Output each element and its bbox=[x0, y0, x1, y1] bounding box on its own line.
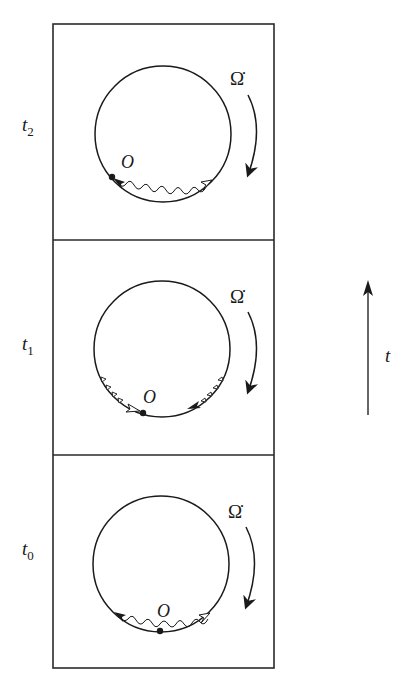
rotation-label: Ω̇ bbox=[230, 68, 246, 89]
panel-t1: Ω̇ O bbox=[94, 281, 257, 417]
open-arrow-icon bbox=[199, 613, 210, 623]
point-o-label: O bbox=[121, 152, 134, 172]
time-label-t0: t0 bbox=[22, 538, 34, 563]
time-axis-arrow-icon bbox=[363, 280, 373, 415]
wave-signal bbox=[118, 181, 206, 194]
rotation-label: Ω̇ bbox=[228, 501, 244, 522]
rotation-arrow-icon bbox=[246, 527, 255, 607]
time-label-t2: t2 bbox=[22, 114, 34, 139]
rotation-arrow-icon bbox=[248, 312, 257, 392]
rotation-arrow-icon bbox=[248, 95, 257, 175]
point-o-dot bbox=[157, 628, 163, 634]
ring-circle bbox=[94, 281, 230, 417]
rotation-label: Ω̇ bbox=[230, 286, 246, 307]
time-axis-label: t bbox=[385, 345, 391, 366]
solid-arrow-icon bbox=[187, 401, 201, 409]
time-label-t1: t1 bbox=[22, 333, 34, 358]
panel-t2: Ω̇ O bbox=[95, 66, 257, 202]
point-o-dot bbox=[140, 410, 146, 416]
solid-arrow-icon bbox=[113, 178, 125, 189]
panel-t0: Ω̇ O bbox=[93, 496, 255, 634]
point-o-dot bbox=[109, 174, 115, 180]
point-o-label: O bbox=[157, 601, 170, 621]
sagnac-diagram: t2 t1 t0 t Ω̇ O Ω̇ bbox=[0, 0, 411, 697]
outer-frame bbox=[53, 24, 274, 668]
wave-packet-left bbox=[101, 377, 123, 403]
point-o-label: O bbox=[143, 387, 156, 407]
wave-packet-right bbox=[201, 377, 223, 402]
